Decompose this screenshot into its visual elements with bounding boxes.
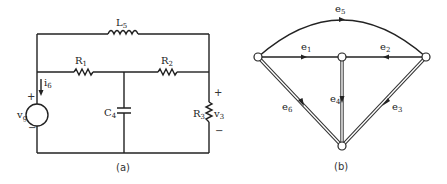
label-e5: e5	[335, 3, 345, 16]
inductor-l5	[108, 31, 138, 35]
label-e6: e6	[282, 101, 293, 114]
caption-b: (b)	[334, 161, 348, 172]
edge-e5-arrow	[339, 17, 345, 22]
capacitor-c4	[117, 108, 131, 113]
node-left	[254, 53, 262, 61]
label-r3: R3	[193, 108, 205, 121]
label-l5: L5	[116, 17, 127, 30]
label-v3: v3	[213, 108, 224, 121]
caption-a: (a)	[116, 162, 130, 173]
label-e2: e2	[380, 41, 390, 54]
label-r1: R1	[75, 55, 87, 68]
edge-e1-arrow	[301, 55, 307, 60]
circuit-diagram: L5 R1 R2 R3 C4 vg i6 v3 + − + − (a)	[16, 17, 224, 173]
v3-plus: +	[214, 87, 222, 98]
label-e1: e1	[301, 41, 311, 54]
label-e3: e3	[392, 101, 402, 114]
label-c4: C4	[104, 107, 117, 120]
edge-e2-arrow	[383, 55, 389, 60]
current-arrowhead	[39, 90, 44, 96]
label-vg: vg	[16, 109, 28, 122]
source-plus: +	[27, 91, 35, 102]
node-bottom	[338, 142, 346, 150]
label-e4: e4	[330, 93, 341, 106]
resistor-r3	[206, 102, 212, 122]
source-minus: −	[28, 122, 36, 133]
node-right	[422, 53, 430, 61]
edge-e3	[342, 57, 426, 146]
label-i6: i6	[44, 77, 52, 90]
resistor-r2	[158, 69, 177, 75]
v3-minus: −	[215, 125, 223, 136]
edge-e5	[258, 20, 426, 57]
resistor-r1	[74, 69, 93, 75]
label-r2: R2	[161, 55, 173, 68]
node-center	[338, 53, 346, 61]
graph-diagram: e5 e1 e2 e4 e6 e3 (b)	[254, 3, 430, 172]
